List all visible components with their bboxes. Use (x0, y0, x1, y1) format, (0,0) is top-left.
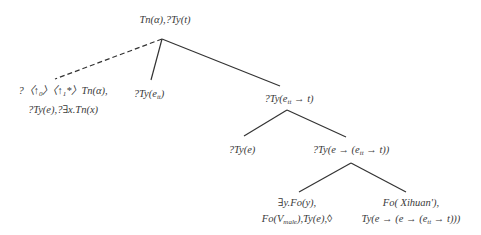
object-label: ?Ty(e) (229, 142, 256, 158)
edge-root-subject (151, 39, 162, 80)
edge-transitive-verb (351, 163, 406, 192)
node-metavariable: ∃y.Fo(y), Fo(Vmale),Ty(e),◊ (262, 195, 333, 230)
unfixed-label-line1: ?〈↑0〉〈↑1*〉Tn(α), (18, 83, 107, 102)
edge-predicate-object (244, 110, 287, 136)
node-transitive: ?Ty(e → (ett → t)) (313, 142, 390, 161)
node-object: ?Ty(e) (229, 142, 256, 158)
transitive-label: ?Ty(e → (ett → t)) (313, 142, 390, 161)
node-unfixed: ?〈↑0〉〈↑1*〉Tn(α), ?Ty(e),?∃x.Tn(x) (18, 83, 107, 118)
node-predicate: ?Ty(ett → t) (264, 91, 313, 110)
edge-predicate-transitive (287, 110, 346, 137)
node-verb: Fo( Xihuan'), Ty(e → (e → (ett → t))) (362, 195, 461, 230)
verb-label-line2: Ty(e → (e → (ett → t))) (362, 211, 461, 230)
unfixed-label-line2: ?Ty(e),?∃x.Tn(x) (18, 102, 107, 118)
edge-root-unfixed (55, 39, 162, 79)
node-subject: ?Ty(ett) (134, 86, 165, 105)
metavariable-label-line1: ∃y.Fo(y), (262, 195, 333, 211)
edge-transitive-metavariable (299, 163, 351, 192)
edge-root-predicate (162, 39, 280, 86)
node-root: Tn(α),?Ty(t) (139, 12, 190, 28)
metavariable-label-line2: Fo(Vmale),Ty(e),◊ (262, 211, 333, 230)
verb-label-line1: Fo( Xihuan'), (362, 195, 461, 211)
root-label: Tn(α),?Ty(t) (139, 12, 190, 28)
predicate-label: ?Ty(ett → t) (264, 91, 313, 110)
subject-label: ?Ty(ett) (134, 86, 165, 105)
